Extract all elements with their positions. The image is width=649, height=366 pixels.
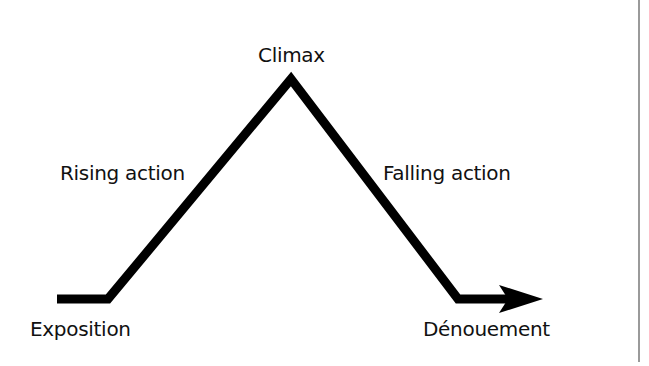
exposition-label: Exposition [30, 319, 131, 339]
page-edge-divider [638, 0, 640, 362]
plot-line [57, 79, 527, 299]
denouement-label: Dénouement [423, 319, 550, 339]
falling-action-label: Falling action [383, 163, 511, 183]
climax-label: Climax [258, 45, 325, 65]
rising-action-label: Rising action [60, 163, 185, 183]
